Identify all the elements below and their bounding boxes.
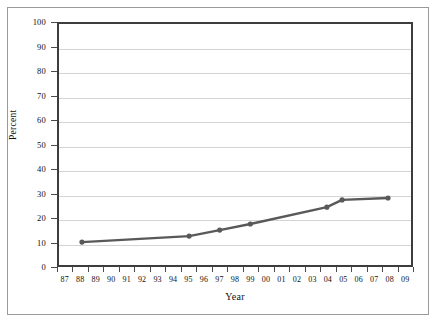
- data-point-marker: [79, 240, 84, 245]
- data-line: [82, 198, 388, 242]
- y-axis-tick-label: 0: [0, 263, 46, 272]
- data-point-marker: [217, 228, 222, 233]
- x-axis-tick-mark: [305, 267, 306, 272]
- data-point-marker: [385, 195, 390, 200]
- x-axis-tick-mark: [165, 267, 166, 272]
- y-axis-tick-label: 40: [0, 165, 46, 174]
- x-axis-tick-mark: [134, 267, 135, 272]
- x-axis-tick-mark: [103, 267, 104, 272]
- data-point-marker: [340, 197, 345, 202]
- x-axis-tick-mark: [181, 267, 182, 272]
- x-axis-tick-mark: [413, 267, 414, 272]
- x-axis-tick-mark: [351, 267, 352, 272]
- x-axis-tick-mark: [382, 267, 383, 272]
- y-axis-tick-label: 70: [0, 92, 46, 101]
- x-axis-tick-mark: [72, 267, 73, 272]
- x-axis-tick-mark: [243, 267, 244, 272]
- data-point-marker: [187, 234, 192, 239]
- x-axis-tick-mark: [57, 267, 58, 272]
- x-axis-tick-mark: [258, 267, 259, 272]
- x-axis-tick-label: 09: [393, 276, 417, 284]
- x-axis-tick-mark: [367, 267, 368, 272]
- x-axis-tick-mark: [150, 267, 151, 272]
- x-axis-tick-mark: [398, 267, 399, 272]
- plot-area: [57, 22, 413, 267]
- y-axis-tick-label: 20: [0, 214, 46, 223]
- x-axis-title: Year: [57, 292, 413, 302]
- data-point-marker: [324, 205, 329, 210]
- x-axis-tick-mark: [212, 267, 213, 272]
- x-axis-tick-mark: [196, 267, 197, 272]
- x-axis-tick-mark: [88, 267, 89, 272]
- y-axis-tick-label: 50: [0, 141, 46, 150]
- series-line-percent: [59, 24, 411, 265]
- y-axis-tick-label: 30: [0, 190, 46, 199]
- x-axis-tick-mark: [289, 267, 290, 272]
- x-axis-tick-mark: [320, 267, 321, 272]
- x-axis-tick-mark: [336, 267, 337, 272]
- y-axis-tick-label: 90: [0, 43, 46, 52]
- y-axis-tick-label: 60: [0, 116, 46, 125]
- x-axis-tick-mark: [119, 267, 120, 272]
- y-axis-tick-label: 80: [0, 67, 46, 76]
- y-axis-tick-label: 100: [0, 18, 46, 27]
- x-axis-tick-mark: [274, 267, 275, 272]
- x-axis-tick-mark: [227, 267, 228, 272]
- y-axis-tick-label: 10: [0, 239, 46, 248]
- line-chart: Percent 0102030405060708090100 878889909…: [0, 0, 438, 324]
- data-point-marker: [248, 221, 253, 226]
